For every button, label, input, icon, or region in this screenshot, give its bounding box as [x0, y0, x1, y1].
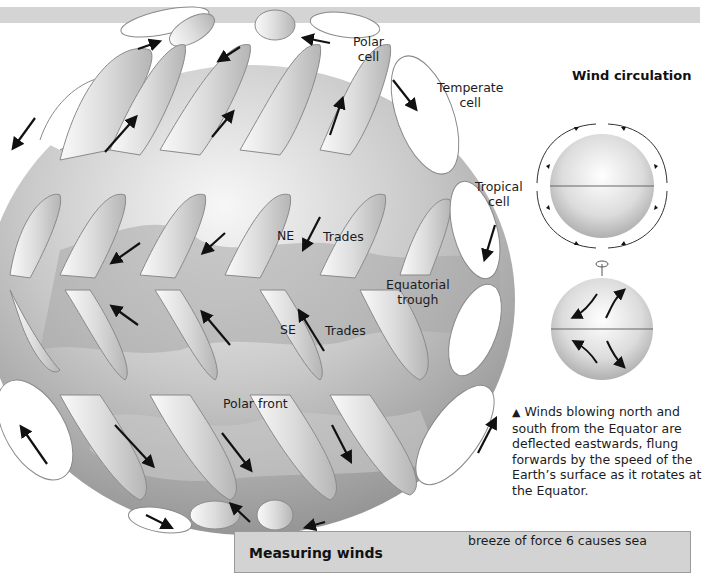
label-ne-trades: Trades	[323, 229, 364, 244]
label-tropical-cell: Tropical cell	[475, 179, 523, 209]
label-equatorial-trough: Equatorial trough	[386, 277, 450, 307]
label-line: cell	[353, 49, 384, 64]
label-ne: NE	[277, 228, 294, 243]
measuring-winds-box: Measuring winds breeze of force 6 causes…	[234, 531, 691, 573]
label-polar-front: Polar front	[223, 396, 288, 411]
box-text: breeze of force 6 causes sea	[468, 533, 647, 548]
label-polar-cell: Polar cell	[353, 34, 384, 64]
inset-circulation-globe	[537, 124, 667, 380]
label-line: Equatorial	[386, 277, 450, 292]
label-line: Polar	[353, 34, 384, 49]
label-line: Temperate	[437, 80, 503, 95]
inset-title: Wind circulation	[572, 68, 692, 83]
triangle-marker-icon: ▲	[512, 406, 520, 419]
caption-text: Winds blowing north and south from the E…	[512, 404, 701, 498]
label-line: cell	[475, 194, 523, 209]
box-title: Measuring winds	[249, 545, 383, 561]
label-se-trades: Trades	[325, 323, 366, 338]
label-line: cell	[437, 95, 503, 110]
label-line: Tropical	[475, 179, 523, 194]
label-se: SE	[280, 322, 296, 337]
inset-caption: ▲ Winds blowing north and south from the…	[512, 404, 702, 498]
label-temperate-cell: Temperate cell	[437, 80, 503, 110]
label-line: trough	[386, 292, 450, 307]
